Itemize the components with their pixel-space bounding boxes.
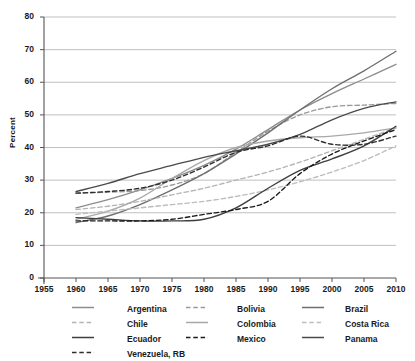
legend-swatch-argentina: [72, 303, 126, 315]
y-tick-label: 30: [10, 174, 34, 184]
legend-swatch-venezuela-rb: [72, 348, 126, 360]
x-tick-label: 1985: [219, 284, 253, 294]
legend-swatch-bolivia: [186, 303, 236, 315]
x-tick-label: 2000: [315, 284, 349, 294]
x-tick-label: 1980: [187, 284, 221, 294]
series-line-colombia: [76, 128, 396, 219]
x-tick-label: 1955: [27, 284, 61, 294]
y-tick-label: 80: [10, 11, 34, 21]
series-line-argentina: [76, 64, 396, 208]
y-tick-label: 20: [10, 207, 34, 217]
y-tick-label: 50: [10, 109, 34, 119]
legend-label-costa-rica: Costa Rica: [344, 319, 404, 329]
y-tick-label: 10: [10, 239, 34, 249]
legend-label-chile: Chile: [126, 319, 186, 329]
legend-label-venezuela-rb: Venezuela, RB: [126, 349, 186, 359]
axis-lines: [38, 17, 396, 284]
legend-swatch-panama: [302, 333, 344, 345]
x-tick-label: 1975: [155, 284, 189, 294]
x-tick-label: 2005: [347, 284, 381, 294]
series-line-ecuador: [76, 126, 396, 221]
series-line-chile: [76, 128, 396, 210]
legend-label-bolivia: Bolivia: [236, 304, 302, 314]
legend-swatch-colombia: [186, 318, 236, 330]
y-tick-label: 40: [10, 142, 34, 152]
gridlines: [44, 17, 396, 245]
legend-swatch-brazil: [302, 303, 344, 315]
x-tick-label: 1970: [123, 284, 157, 294]
legend-label-colombia: Colombia: [236, 319, 302, 329]
x-tick-label: 1995: [283, 284, 317, 294]
legend-swatch-mexico: [186, 333, 236, 345]
x-tick-label: 1990: [251, 284, 285, 294]
y-tick-label: 0: [10, 272, 34, 282]
legend-swatch-chile: [72, 318, 126, 330]
y-tick-label: 70: [10, 44, 34, 54]
legend-label-mexico: Mexico: [236, 334, 302, 344]
x-tick-label: 2010: [379, 284, 413, 294]
legend-label-brazil: Brazil: [344, 304, 404, 314]
legend-swatch-ecuador: [72, 333, 126, 345]
y-tick-label: 60: [10, 76, 34, 86]
x-tick-label: 1965: [91, 284, 125, 294]
legend-label-panama: Panama: [344, 334, 404, 344]
chart-legend: ArgentinaBoliviaBrazilChileColombiaCosta…: [72, 301, 402, 361]
legend-label-argentina: Argentina: [126, 304, 186, 314]
x-tick-label: 1960: [59, 284, 93, 294]
legend-label-ecuador: Ecuador: [126, 334, 186, 344]
legend-swatch-costa-rica: [302, 318, 344, 330]
series-lines: [76, 51, 396, 222]
